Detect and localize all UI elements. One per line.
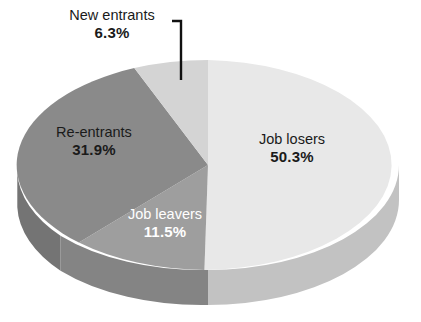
slice-label-job-leavers-value: 11.5%	[104, 223, 226, 241]
slice-label-re-entrants-name: Re-entrants	[30, 124, 158, 141]
slice-label-re-entrants: Re-entrants 31.9%	[30, 124, 158, 159]
slice-label-job-losers-name: Job losers	[236, 131, 348, 148]
slice-label-job-leavers: Job leavers 11.5%	[104, 206, 226, 241]
pie-chart: New entrants 6.3% Re-entrants 31.9% Job …	[0, 0, 421, 322]
pie-chart-graphic	[0, 0, 421, 322]
slice-label-job-losers-value: 50.3%	[236, 148, 348, 166]
slice-label-new-entrants: New entrants 6.3%	[42, 7, 182, 42]
slice-label-new-entrants-value: 6.3%	[42, 24, 182, 42]
slice-label-re-entrants-value: 31.9%	[30, 141, 158, 159]
slice-label-job-losers: Job losers 50.3%	[236, 131, 348, 166]
slice-label-new-entrants-name: New entrants	[42, 7, 182, 24]
slice-label-job-leavers-name: Job leavers	[104, 206, 226, 223]
